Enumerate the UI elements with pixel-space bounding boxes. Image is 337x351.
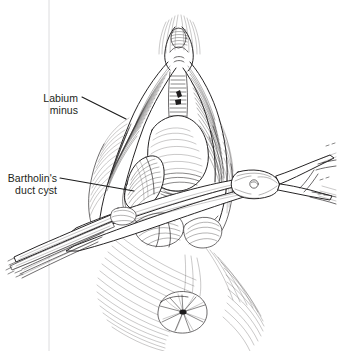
label-bartholins-duct-cyst-line1: Bartholin's	[8, 172, 57, 184]
medical-illustration-figure: Labium minus Bartholin's duct cyst	[0, 0, 337, 351]
anus	[158, 291, 207, 333]
label-labium-minus-line1: Labium	[43, 92, 78, 104]
label-labium-minus-line2: minus	[50, 104, 78, 116]
scissors-screw-icon	[250, 180, 258, 188]
illustration-canvas: Labium minus Bartholin's duct cyst	[0, 0, 337, 351]
label-bartholins-duct-cyst-line2: duct cyst	[15, 184, 57, 196]
